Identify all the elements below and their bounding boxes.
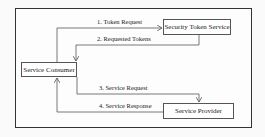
edge-label-service-response: 4. Service Response: [99, 102, 152, 109]
node-service-provider: Service Provider: [163, 103, 234, 119]
edge-label-service-request: 3. Service Request: [99, 84, 148, 91]
node-service-consumer: Service Consumer: [21, 62, 77, 77]
edge-label-requested-tokens: 2. Requested Tokens: [97, 35, 151, 42]
node-security-token-service: Security Token Service: [163, 19, 231, 35]
edge-label-token-request: 1. Token Request: [97, 18, 142, 25]
